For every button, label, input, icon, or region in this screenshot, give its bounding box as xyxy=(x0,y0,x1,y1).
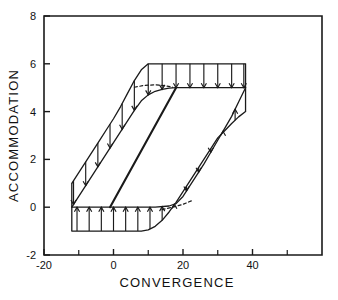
y-tick-label: 4 xyxy=(30,106,36,118)
lower-band-arrow xyxy=(99,207,104,231)
x-axis-title: CONVERGENCE xyxy=(119,275,234,290)
y-tick-label: 6 xyxy=(30,58,36,70)
x-tick-label: -20 xyxy=(36,259,52,271)
lower-band-arrow xyxy=(111,207,116,231)
upper-band-arrow xyxy=(187,64,192,88)
lower-band-arrow xyxy=(184,186,189,191)
figure-container: -202468-2002040CONVERGENCEACCOMMODATION xyxy=(0,0,338,300)
lower-band-arrow xyxy=(147,207,152,229)
upper-band-arrow xyxy=(146,64,151,95)
series-central-diagonal xyxy=(110,88,176,208)
arrows-group xyxy=(71,64,246,231)
x-tick-label: 0 xyxy=(110,259,116,271)
upper-band-arrow xyxy=(160,64,165,90)
series-upper-dashed-segment xyxy=(134,85,172,87)
upper-band-arrow xyxy=(215,64,220,88)
x-tick-label: 20 xyxy=(177,259,189,271)
lower-band-arrow xyxy=(87,207,92,231)
lower-band-arrow xyxy=(135,207,140,231)
upper-band-arrow xyxy=(173,64,178,88)
y-tick-label: 2 xyxy=(30,153,36,165)
upper-band-arrow xyxy=(229,64,234,88)
lower-band-arrow xyxy=(123,207,128,231)
hysteresis-plot: -202468-2002040CONVERGENCEACCOMMODATION xyxy=(0,0,338,300)
series-lower-outer-curve xyxy=(72,112,246,232)
y-tick-label: 8 xyxy=(30,10,36,22)
axes-group xyxy=(44,16,322,255)
y-tick-label: 0 xyxy=(30,201,36,213)
y-tick-label: -2 xyxy=(26,249,36,261)
lower-band-arrow xyxy=(196,167,201,172)
x-tick-label: 40 xyxy=(246,259,258,271)
plot-frame xyxy=(44,16,322,255)
lower-band-arrow xyxy=(220,131,225,136)
upper-band-arrow xyxy=(201,64,206,88)
lower-band-arrow xyxy=(74,207,79,231)
y-axis-title: ACCOMMODATION xyxy=(6,69,21,202)
